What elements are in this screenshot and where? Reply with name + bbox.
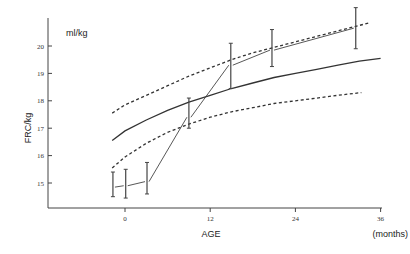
x-axis-label: AGE bbox=[201, 229, 220, 239]
y-tick-label: 19 bbox=[37, 70, 45, 78]
measurement-line bbox=[274, 28, 354, 50]
y-axis-label: FRC/kg bbox=[23, 113, 33, 144]
y-tick-label: 18 bbox=[37, 97, 45, 105]
y-tick-label: 20 bbox=[37, 43, 45, 51]
unit-annotation: ml/kg bbox=[66, 28, 88, 38]
x-axis-unit: (months) bbox=[372, 229, 408, 239]
axes bbox=[48, 18, 382, 208]
x-tick-label: 12 bbox=[207, 215, 215, 223]
measurement-line bbox=[115, 186, 124, 187]
y-ticks: 151617181920 bbox=[37, 43, 52, 188]
y-tick-label: 15 bbox=[37, 180, 45, 188]
x-ticks: 0122436 bbox=[123, 208, 384, 223]
frc-chart: 151617181920 0122436 ml/kg FRC/kg AGE (m… bbox=[0, 0, 410, 254]
y-tick-label: 17 bbox=[37, 125, 45, 133]
measurement-line bbox=[149, 117, 187, 181]
x-tick-label: 24 bbox=[292, 215, 300, 223]
lower-limit-curve bbox=[112, 93, 361, 168]
x-tick-label: 36 bbox=[377, 215, 385, 223]
measurement-line bbox=[128, 182, 145, 186]
series bbox=[111, 8, 381, 198]
y-tick-label: 16 bbox=[37, 152, 45, 160]
x-tick-label: 0 bbox=[123, 215, 127, 223]
upper-limit-curve bbox=[112, 23, 370, 113]
mean-curve bbox=[112, 58, 380, 140]
